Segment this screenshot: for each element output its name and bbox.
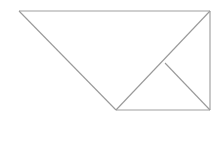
geometric-figure-canvas: [0, 0, 223, 150]
figure-background: [0, 0, 223, 150]
